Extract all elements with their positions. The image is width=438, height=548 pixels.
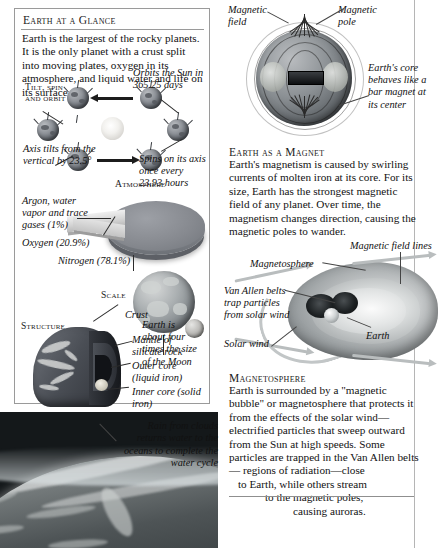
inner-core-label: Inner core (solid iron) (132, 386, 206, 410)
panel-heading: Earth at a Glance (23, 14, 116, 26)
tilt-spin-orbit-label: Tilt, spin and orbit (25, 82, 65, 103)
earth-as-magnet-heading: Earth as a Magnet (229, 146, 324, 158)
continent-highlight-left (260, 62, 286, 92)
crust-label: Crust (125, 309, 148, 321)
magnetosphere-label: Magnetosphere (250, 258, 314, 270)
orbit-arrow-top (97, 97, 133, 100)
earth-core-magnet-label: Earth's core behaves like a bar magnet a… (368, 62, 430, 111)
right-column: Magnetic field Magnetic pole Earth's cor… (218, 0, 435, 548)
earth-in-magnetosphere (324, 308, 339, 323)
axis-tilt-label: Axis tilts from the vertical by 23.5° (23, 143, 103, 167)
heading-divider (21, 29, 204, 30)
argon-label: Argon, water vapor and trace gases (1%) (22, 195, 100, 232)
mspher-line-8: regions of radiation—close (243, 464, 365, 476)
earth-as-magnet-body: Earth's magnetism is caused by swirling … (229, 158, 420, 238)
continent-highlight-right (322, 62, 348, 92)
water-cycle-caption: Rain from clouds returns water to the oc… (116, 420, 218, 470)
oxygen-label: Oxygen (20.9%) (22, 237, 122, 249)
earth-orbit-position-3 (37, 119, 59, 141)
mantle-label: Mantle of silicate rock (132, 334, 202, 358)
orbit-period-label: Orbits the Sun in 365.25 days (133, 67, 209, 91)
leader-line-mantle (115, 341, 133, 346)
van-allen-belts-label: Van Allen belts trap particles from sola… (224, 285, 292, 322)
bottom-divider (229, 496, 414, 497)
magnetosphere-heading: Magnetosphere (229, 372, 306, 384)
leader-line-orbit (160, 99, 178, 113)
leader-line-field-lines (400, 252, 401, 284)
earth-orbit-position-1 (67, 87, 89, 109)
scale-section-label: Scale (101, 290, 126, 301)
mspher-line-11: causing auroras. (229, 505, 420, 518)
sun-illustration (101, 117, 124, 140)
leader-line-spin (161, 139, 182, 152)
mspher-line-9: to Earth, while others stream (229, 478, 420, 491)
earth-as-magnet-diagram (234, 14, 384, 138)
mspher-line-10: to the magnetic poles, (229, 491, 420, 504)
bar-magnet-icon (288, 71, 324, 85)
solar-wind-label: Solar wind (224, 338, 269, 350)
structure-section-label: Structure (21, 321, 65, 332)
earth-label-magnetosphere: Earth (366, 330, 389, 342)
mspher-line-2: bubble" or magnetosphere that (229, 397, 366, 409)
earth-at-a-glance-panel: Earth at a Glance Earth is the largest o… (14, 8, 210, 404)
atmosphere-section-label: Atmosphere (115, 179, 166, 190)
outer-core-label: Outer core (liquid iron) (132, 360, 206, 384)
magnetosphere-body: Earth is surrounded by a "magnetic bubbl… (229, 384, 420, 518)
magnetic-pole-label: Magnetic pole (338, 4, 396, 28)
earth-orbit-position-4 (167, 119, 189, 141)
magnetic-field-lines-label: Magnetic field lines (350, 240, 436, 252)
mspher-line-1: Earth is surrounded by a "magnetic (229, 384, 387, 396)
